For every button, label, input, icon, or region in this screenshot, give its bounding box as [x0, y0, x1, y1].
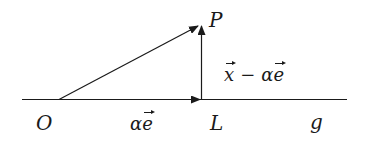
- label-alpha-e: αe: [130, 115, 153, 133]
- vector-x: [59, 26, 198, 100]
- alpha-symbol: α: [130, 113, 142, 134]
- alpha-symbol: α: [261, 64, 273, 85]
- minus-symbol: −: [240, 64, 255, 85]
- line-label-g: g: [310, 112, 323, 132]
- vector-e-symbol: e: [273, 66, 284, 84]
- vector-x-symbol: x: [224, 66, 234, 84]
- point-label-p: P: [209, 10, 222, 30]
- label-x-minus-alpha-e: x−αe: [224, 66, 284, 84]
- point-label-o: O: [36, 113, 52, 133]
- point-label-l: L: [210, 113, 223, 133]
- vector-e-symbol: e: [142, 115, 153, 133]
